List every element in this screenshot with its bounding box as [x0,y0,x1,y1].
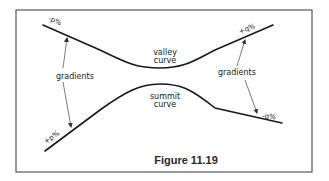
figure-frame [16,10,312,172]
valley-label-line2: curve [154,56,176,65]
right-gradients-label: gradients [218,68,256,77]
figure-caption: Figure 11.19 [154,154,218,166]
summit-label-line2: curve [154,100,176,109]
bottom-right-gradient-label: -q% [262,112,277,121]
figure-11-19-diagram: -p% +q% +p% -q% gradients gradients vall… [0,0,329,181]
left-gradients-label: gradients [56,72,94,81]
